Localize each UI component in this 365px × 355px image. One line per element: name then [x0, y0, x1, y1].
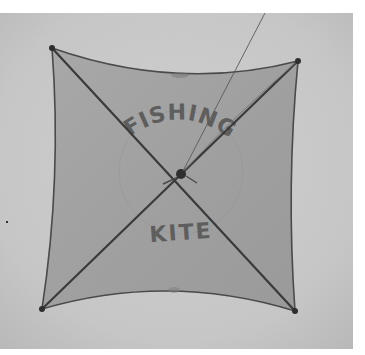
printed-mark-top: [171, 72, 189, 78]
corner-top-left: [49, 45, 55, 51]
photo-speck: [6, 221, 8, 223]
corner-top-right: [295, 58, 301, 64]
kite-hub: [176, 169, 186, 179]
kite-photograph: FISHING KITE: [0, 13, 353, 349]
corner-bottom-right: [292, 308, 298, 314]
corner-bottom-left: [39, 306, 45, 312]
printed-mark-bottom: [168, 287, 180, 293]
photo-frame: FISHING KITE: [0, 0, 365, 355]
kite-text-kite: KITE: [149, 218, 214, 247]
